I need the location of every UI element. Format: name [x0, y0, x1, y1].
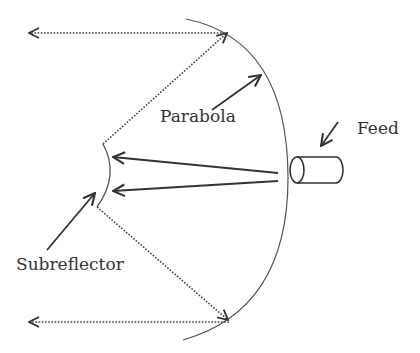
subreflector-pointer-arrow [47, 193, 95, 250]
feed-ray-lower [113, 181, 278, 191]
feed-horn-icon [290, 157, 343, 183]
reflected-ray-upper [103, 33, 227, 144]
subreflector-curve [97, 144, 110, 207]
feed-label: Feed [357, 118, 399, 138]
parabola-reflector [183, 19, 288, 340]
feed-pointer-arrow [321, 122, 338, 146]
subreflector-label: Subreflector [16, 254, 124, 274]
cassegrain-diagram [0, 0, 420, 353]
parabola-label: Parabola [160, 106, 236, 126]
feed-ray-upper [113, 157, 278, 173]
parabola-pointer-arrow [212, 75, 261, 110]
